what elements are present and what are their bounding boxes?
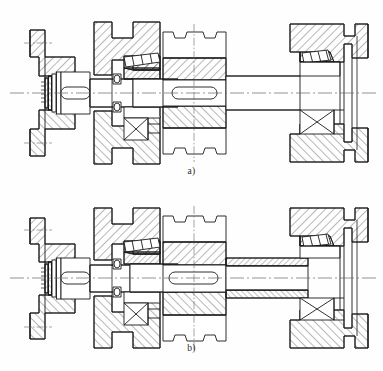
figure-a-drawing <box>0 0 383 186</box>
right-tapered-roller-bearing <box>300 50 344 134</box>
drawing-sheet: a) <box>0 0 383 371</box>
lock-nut-washer <box>41 258 61 299</box>
figure-a: a) <box>0 0 383 186</box>
figure-b: b) <box>0 186 383 371</box>
figure-a-caption: a) <box>0 166 383 176</box>
flange-hub-boss <box>61 258 90 299</box>
figure-b-caption: b) <box>0 343 383 353</box>
shaft-journal-left <box>90 265 130 292</box>
